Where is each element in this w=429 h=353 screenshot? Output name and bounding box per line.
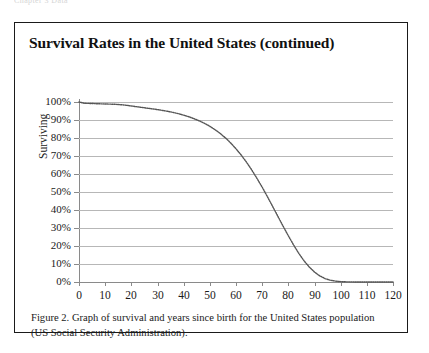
figure-box: Survival Rates in the United States (con… (14, 22, 408, 333)
survival-chart: Surviving 0%10%20%30%40%50%60%70%80%90%1… (15, 63, 409, 295)
figure-title: Survival Rates in the United States (con… (29, 34, 334, 52)
running-header: Chapter 3 Data (14, 0, 164, 6)
figure-caption: Figure 2. Graph of survival and years si… (31, 311, 391, 340)
survival-curve (15, 63, 409, 295)
